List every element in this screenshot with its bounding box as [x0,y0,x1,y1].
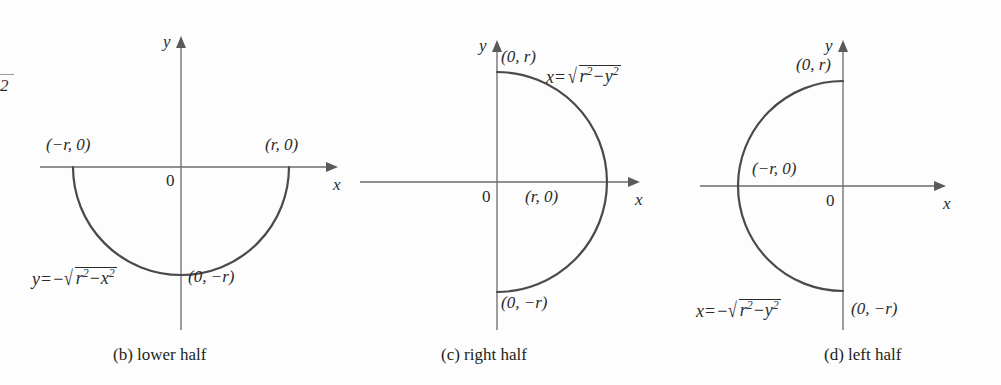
equation-relation: = [704,301,716,321]
radical-expression: √r2−x2 [64,268,116,288]
origin-label: 0 [482,188,491,205]
y-axis-arrowhead [176,36,186,48]
radicand-first-term: r [76,268,83,288]
panel-caption-b: (b) lower half [113,345,206,365]
radicand-second-term: y [605,66,613,86]
x-axis-label: x [333,176,341,193]
radicand-second-term: x [101,268,109,288]
equation-right-half: x=√r2−y2 [546,66,621,86]
y-axis-arrowhead [838,40,848,52]
point-label-left-intercept: (−r, 0) [752,160,797,177]
radicand: r2−y2 [739,299,781,319]
x-axis-label: x [635,191,643,208]
radicand-first-exponent: 2 [747,298,753,312]
radicand-second-exponent: 2 [109,266,115,280]
equation-lhs: x [696,301,704,321]
y-axis-label: y [163,33,171,50]
panel-lower-half: (−r, 0) (r, 0) (0, −r) 0 x y y=−√r2−x2 (… [0,0,360,385]
point-label-bottom-vertex: (0, −r) [851,300,897,317]
radicand-second-exponent: 2 [773,298,779,312]
radicand-operator: − [593,66,605,86]
origin-label: 0 [826,192,835,209]
radical-sign-icon: √ [728,299,737,320]
radicand-operator: − [89,268,101,288]
x-axis-arrowhead [934,181,946,191]
point-label-left-intercept: (−r, 0) [46,136,91,153]
radicand-second-term: y [765,300,773,320]
point-label-right-intercept: (r, 0) [525,188,558,205]
equation-leading-sign: − [716,301,728,321]
panel-d-graphics [700,0,1001,385]
radicand-first-term: r [740,300,747,320]
x-axis-arrowhead [326,162,338,172]
origin-label: 0 [166,172,175,189]
radical-expression: √r2−y2 [728,300,780,320]
point-label-top-vertex: (0, r) [796,56,831,73]
panel-right-half: (0, r) (r, 0) (0, −r) 0 x y x=√r2−y2 (c)… [360,0,700,385]
point-label-right-intercept: (r, 0) [265,136,298,153]
panel-caption-d: (d) left half [824,345,901,365]
equation-lhs: x [546,67,554,87]
panel-left-half: (0, r) (−r, 0) (0, −r) 0 x y x=−√r2−y2 (… [700,0,1001,385]
radical-expression: √r2−y2 [568,66,620,86]
point-label-top-vertex: (0, r) [501,48,536,65]
y-axis-label: y [825,37,833,54]
equation-relation: = [554,67,566,87]
radical-sign-icon: √ [568,65,577,86]
x-axis-arrowhead [628,177,640,187]
radicand-first-exponent: 2 [587,64,593,78]
equation-relation: = [40,269,52,289]
equation-leading-sign: − [52,269,64,289]
radical-sign-icon: √ [64,267,73,288]
equation-left-half: x=−√r2−y2 [696,300,781,320]
radicand: r2−x2 [75,267,117,287]
figure-canvas: 2 (−r, 0) (r, 0) (0, −r) 0 x y y=−√r2−x2… [0,0,1001,385]
radicand-second-exponent: 2 [613,64,619,78]
equation-lhs: y [32,269,40,289]
y-axis-label: y [479,37,487,54]
radicand-first-term: r [580,66,587,86]
radicand-first-exponent: 2 [83,266,89,280]
equation-lower-half: y=−√r2−x2 [32,268,117,288]
radicand: r2−y2 [579,65,621,85]
radicand-operator: − [753,300,765,320]
x-axis-label: x [943,195,951,212]
panel-caption-c: (c) right half [441,345,527,365]
panel-b-graphics [0,0,360,385]
point-label-bottom-vertex: (0, −r) [501,294,547,311]
point-label-bottom-vertex: (0, −r) [188,268,234,285]
